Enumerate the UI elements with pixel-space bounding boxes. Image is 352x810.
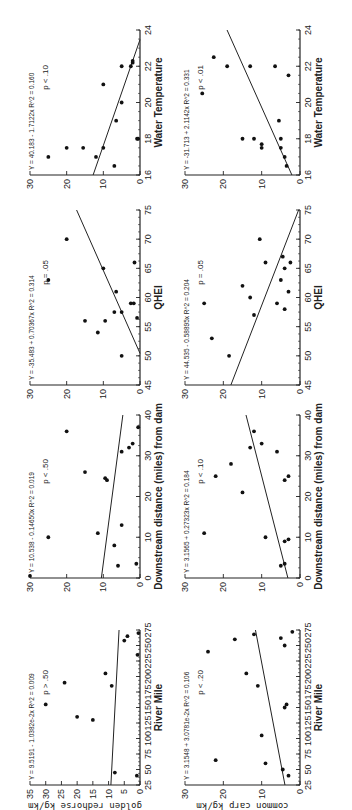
x-tick-label: 50	[303, 351, 313, 361]
data-point	[120, 523, 124, 527]
data-point	[112, 310, 116, 314]
data-point	[94, 155, 98, 159]
y-tick-label: 10	[257, 582, 267, 592]
regression-equation: Y = 3.1548 + 3.0781e-2x R^2 = 0.106	[183, 671, 190, 780]
y-tick-label: 10	[257, 389, 267, 399]
x-tick-label: 60	[303, 292, 313, 302]
y-axis-label: common carp kg/km	[196, 801, 288, 810]
x-tick-label: 125	[303, 715, 313, 730]
x-tick-label: 20	[143, 97, 153, 107]
regression-equation: Y = -31.713 + 2.1142x R^2 = 0.331	[183, 69, 190, 170]
x-tick-label: 225	[143, 653, 153, 668]
scatter-plot-4: 16182022240102030Water TemperatureY = 40…	[25, 25, 164, 189]
x-tick-label: 18	[143, 134, 153, 144]
x-tick-label: 75	[143, 205, 153, 215]
x-tick-label: 0	[303, 575, 313, 580]
data-point	[122, 639, 126, 643]
regression-equation: Y = 44.535 - 0.58895x R^2 = 0.204	[183, 279, 190, 380]
y-tick-label: 30	[180, 389, 190, 399]
y-tick-label: 10	[98, 179, 108, 189]
data-point	[241, 284, 245, 288]
data-point	[120, 450, 124, 454]
x-tick-label: 200	[143, 669, 153, 684]
data-point	[136, 653, 140, 657]
x-tick-label: 0	[143, 575, 153, 580]
x-tick-label: 22	[303, 61, 313, 71]
x-tick-label: 200	[303, 669, 313, 684]
x-axis-label: QHEI	[313, 285, 324, 310]
x-tick-label: 100	[303, 731, 313, 746]
y-tick-label: 0	[135, 179, 145, 184]
data-point	[110, 684, 114, 688]
data-point	[283, 478, 287, 482]
data-point	[264, 761, 268, 765]
data-point	[202, 531, 206, 535]
data-point	[103, 319, 107, 323]
data-point	[258, 237, 262, 241]
data-point	[227, 354, 231, 358]
x-axis-label: QHEI	[153, 285, 164, 310]
regression-equation: Y = 40.183 - 1.7122x R^2 = 0.160	[28, 72, 35, 170]
data-point	[101, 146, 105, 150]
regression-equation: Y = -35.483 + 0.70367x R^2 = 0.314	[28, 275, 35, 380]
data-point	[283, 307, 287, 311]
x-tick-label: 275	[143, 622, 153, 637]
x-axis-label: Downstream distance (miles) from dam	[153, 403, 164, 590]
data-point	[277, 119, 281, 123]
x-tick-label: 225	[303, 653, 313, 668]
y-tick-label: 20	[218, 582, 228, 592]
data-point	[279, 636, 283, 640]
y-tick-label: 10	[98, 582, 108, 592]
data-point	[225, 64, 229, 68]
x-tick-label: 60	[143, 292, 153, 302]
regression-line	[101, 415, 122, 578]
data-point	[273, 64, 277, 68]
data-point	[96, 331, 100, 335]
p-value-label: p < .20	[196, 670, 205, 695]
data-point	[65, 237, 69, 241]
data-point	[120, 64, 124, 68]
x-tick-label: 150	[303, 700, 313, 715]
data-point	[279, 564, 283, 568]
data-point	[120, 310, 124, 314]
data-point	[283, 266, 287, 270]
x-tick-label: 150	[143, 700, 153, 715]
y-tick-label: 0	[135, 789, 145, 794]
regression-equation: Y = 9.5191 - 1.0382e-2x R^2 = 0.009	[28, 673, 35, 780]
x-tick-label: 20	[303, 97, 313, 107]
data-point	[202, 301, 206, 305]
data-point	[241, 137, 245, 141]
data-point	[283, 644, 287, 648]
data-point	[233, 637, 237, 641]
data-point	[120, 101, 124, 105]
regression-line	[77, 210, 140, 353]
p-value-label: p < .01	[196, 65, 205, 90]
y-tick-label: 0	[295, 389, 305, 394]
y-tick-label: 30	[25, 389, 35, 399]
y-tick-label: 30	[180, 179, 190, 189]
x-axis-label: Water Temperature	[313, 57, 324, 147]
x-tick-label: 125	[143, 715, 153, 730]
x-tick-label: 24	[303, 25, 313, 35]
x-tick-label: 55	[143, 322, 153, 332]
data-point	[136, 137, 140, 141]
y-tick-label: 30	[25, 179, 35, 189]
data-point	[114, 119, 118, 123]
data-point	[260, 146, 264, 150]
data-point	[127, 446, 131, 450]
p-value-label: p < .50	[41, 459, 50, 484]
regression-equation: Y = 3.1565 + 0.27323x R^2 = 0.184	[183, 470, 190, 573]
data-point	[210, 336, 214, 340]
scatter-plot-6: 0102030400102030Downstream distance (mil…	[180, 403, 324, 592]
data-point	[275, 301, 279, 305]
p-value-label: p > .50	[41, 670, 50, 695]
data-point	[252, 429, 256, 433]
x-tick-label: 18	[303, 134, 313, 144]
data-point	[126, 634, 130, 638]
data-point	[75, 715, 79, 719]
x-tick-label: 20	[303, 491, 313, 501]
data-point	[252, 313, 256, 317]
data-point	[104, 672, 108, 676]
x-tick-label: 30	[143, 451, 153, 461]
data-point	[275, 450, 279, 454]
